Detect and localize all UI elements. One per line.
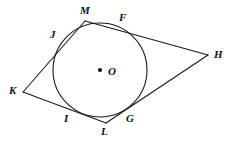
tangent-label-f: F xyxy=(119,12,126,23)
geometry-canvas xyxy=(0,0,235,145)
vertex-label-h: H xyxy=(214,49,223,60)
tangent-label-i: I xyxy=(64,113,68,124)
edge-h-l xyxy=(106,55,208,123)
tangent-label-g: G xyxy=(126,113,134,124)
circle-center-label: O xyxy=(108,66,116,77)
tangent-label-j: J xyxy=(50,29,56,40)
circle-center-dot xyxy=(98,68,102,72)
vertex-label-k: K xyxy=(9,85,16,96)
edge-m-h xyxy=(85,21,208,55)
vertex-label-l: L xyxy=(101,126,108,137)
vertex-label-m: M xyxy=(80,5,90,16)
geometry-figure: M H L K J F G I O xyxy=(0,0,235,145)
